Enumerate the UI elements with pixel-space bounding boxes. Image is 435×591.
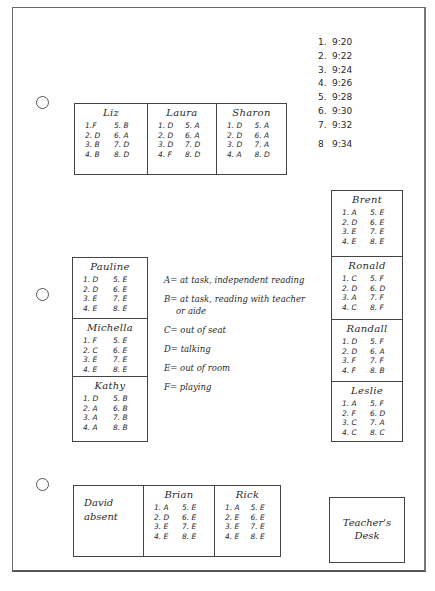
punch-hole-top (36, 96, 49, 109)
student-desk-ronald: Ronald 1. C5. F 2. D6. D 3. A7. F 4. C8.… (332, 256, 402, 319)
student-desk-michella: Michella 1. F5. E 2. C6. E 3. E7. E 4. E… (73, 318, 147, 376)
student-desk-laura: Laura 1. D5. A 2. D6. A 3. D7. D 4. F8. … (147, 104, 216, 174)
observation-codes: 1. A5. F 2. F6. D 3. C7. A 4. C8. C (332, 397, 402, 437)
time-interval: 7.9:32 (318, 119, 352, 133)
observation-codes: 1. A5. E 2. E6. E 3. E7. E 4. E8. E (215, 501, 280, 541)
student-name: Michella (73, 322, 147, 334)
observation-codes: 1. D5. B 2. A6. B 3. A7. B 4. A8. B (73, 392, 147, 432)
legend-item-f: F= playing (164, 381, 305, 393)
time-interval: 2.9:22 (318, 50, 352, 64)
student-desk-leslie: Leslie 1. A5. F 2. F6. D 3. C7. A 4. C8.… (332, 381, 402, 441)
observation-codes: 1. D5. A 2. D6. A 3. D7. A 4. A8. D (217, 119, 286, 159)
observation-codes: 1.F5. B 2. D6. A 3. B7. D 4. B8. D (75, 119, 147, 159)
legend-item-a: A= at task, independent reading (164, 274, 305, 286)
observation-codes: 1. A5. E 2. D6. E 3. E7. E 4. E8. E (332, 206, 402, 246)
student-desk-brent: Brent 1. A5. E 2. D6. E 3. E7. E 4. E8. … (332, 191, 402, 256)
student-name: Liz (75, 107, 147, 119)
time-interval: 4.9:26 (318, 77, 352, 91)
student-name: David (84, 496, 143, 510)
desk-group-left: Pauline 1. D5. E 2. D6. E 3. E7. E 4. E8… (72, 257, 148, 442)
punch-hole-middle (36, 288, 49, 301)
punch-hole-bottom (36, 478, 49, 491)
student-desk-kathy: Kathy 1. D5. B 2. A6. B 3. A7. B 4. A8. … (73, 376, 147, 441)
student-name: Leslie (332, 385, 402, 397)
behavior-code-legend: A= at task, independent reading B= at ta… (164, 274, 305, 400)
time-interval: 1.9:20 (318, 36, 352, 50)
student-name: Kathy (73, 380, 147, 392)
teacher-desk-label: Teacher's Desk (330, 498, 404, 542)
time-interval: 5.9:28 (318, 91, 352, 105)
observation-codes: 1. D5. F 2. D6. A 3. F7. F 4. F8. B (332, 335, 402, 375)
legend-item-c: C= out of seat (164, 324, 305, 336)
student-desk-rick: Rick 1. A5. E 2. E6. E 3. E7. E 4. E8. E (214, 486, 280, 556)
student-name: Randall (332, 323, 402, 335)
observation-codes: 1. A5. E 2. D6. E 3. E7. E 4. E8. E (144, 501, 214, 541)
student-name: Rick (215, 489, 280, 501)
observation-codes: 1. D5. E 2. D6. E 3. E7. E 4. E8. E (73, 273, 147, 313)
student-desk-david: David absent (74, 486, 143, 556)
student-desk-brian: Brian 1. A5. E 2. D6. E 3. E7. E 4. E8. … (143, 486, 214, 556)
desk-group-right: Brent 1. A5. E 2. D6. E 3. E7. E 4. E8. … (331, 190, 403, 442)
student-desk-randall: Randall 1. D5. F 2. D6. A 3. F7. F 4. F8… (332, 319, 402, 381)
desk-group-top: Liz 1.F5. B 2. D6. A 3. B7. D 4. B8. D L… (74, 103, 287, 175)
absent-status: absent (84, 510, 143, 524)
observation-codes: 1. D5. A 2. D6. A 3. D7. D 4. F8. D (148, 119, 216, 159)
student-name: Pauline (73, 261, 147, 273)
student-desk-pauline: Pauline 1. D5. E 2. D6. E 3. E7. E 4. E8… (73, 258, 147, 318)
legend-item-d: D= talking (164, 343, 305, 355)
student-name: Ronald (332, 260, 402, 272)
observation-codes: 1. C5. F 2. D6. D 3. A7. F 4. C8. F (332, 272, 402, 312)
student-name: Sharon (217, 107, 286, 119)
student-name: Laura (148, 107, 216, 119)
legend-item-b: B= at task, reading with teacher or aide (164, 293, 305, 317)
student-name: Brent (332, 194, 402, 206)
time-interval: 89:34 (318, 138, 352, 152)
student-desk-sharon: Sharon 1. D5. A 2. D6. A 3. D7. A 4. A8.… (216, 104, 286, 174)
time-interval-list: 1.9:20 2.9:22 3.9:24 4.9:26 5.9:28 6.9:3… (318, 36, 352, 151)
time-interval: 6.9:30 (318, 105, 352, 119)
student-name: Brian (144, 489, 214, 501)
time-interval: 3.9:24 (318, 64, 352, 78)
observation-codes: 1. F5. E 2. C6. E 3. E7. E 4. E8. E (73, 334, 147, 374)
absent-note: David absent (74, 486, 143, 524)
legend-item-e: E= out of room (164, 362, 305, 374)
desk-group-bottom: David absent Brian 1. A5. E 2. D6. E 3. … (73, 485, 281, 557)
student-desk-liz: Liz 1.F5. B 2. D6. A 3. B7. D 4. B8. D (75, 104, 147, 174)
teacher-desk: Teacher's Desk (329, 497, 405, 563)
